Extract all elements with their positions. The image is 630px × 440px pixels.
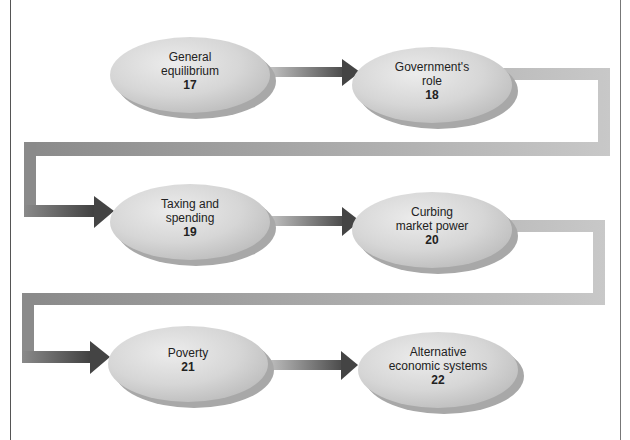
- node-label: Taxing andspending19: [110, 197, 270, 239]
- chapter-number: 19: [110, 225, 270, 239]
- chapter-number: 17: [110, 78, 270, 92]
- node-label: Generalequilibrium17: [110, 50, 270, 92]
- arrow-17-to-18: [268, 59, 360, 86]
- node-title-line: Curbing: [352, 205, 512, 219]
- chapter-number: 20: [352, 233, 512, 247]
- arrow-shaft: [268, 216, 344, 226]
- chapter-number: 18: [352, 88, 512, 102]
- arrowhead-icon: [341, 351, 358, 380]
- node-title-line: economic systems: [358, 359, 518, 373]
- node-label: Poverty21: [108, 346, 268, 374]
- connector-segment: [22, 351, 92, 363]
- connector-segment: [24, 205, 96, 217]
- arrow-19-to-20: [268, 207, 360, 236]
- node-label: Alternativeeconomic systems22: [358, 345, 518, 387]
- flow-diagram: [0, 0, 630, 440]
- arrow-21-to-22: [265, 351, 358, 380]
- node-title-line: Alternative: [358, 345, 518, 359]
- node-title-line: market power: [352, 219, 512, 233]
- chapter-number: 22: [358, 373, 518, 387]
- node-label: Government'srole18: [352, 60, 512, 102]
- node-title-line: Poverty: [108, 346, 268, 360]
- node-title-line: equilibrium: [110, 64, 270, 78]
- node-title-line: role: [352, 74, 512, 88]
- chapter-number: 21: [108, 360, 268, 374]
- node-label: Curbingmarket power20: [352, 205, 512, 247]
- arrowhead-icon: [90, 341, 110, 374]
- arrow-shaft: [265, 360, 343, 370]
- node-title-line: Government's: [352, 60, 512, 74]
- node-title-line: Taxing and: [110, 197, 270, 211]
- arrow-shaft: [268, 67, 344, 77]
- node-title-line: spending: [110, 211, 270, 225]
- node-title-line: General: [110, 50, 270, 64]
